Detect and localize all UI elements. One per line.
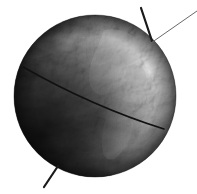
globe-diagram-svg bbox=[0, 0, 197, 194]
figure-canvas: Earth globe with rotation axis and equat… bbox=[0, 0, 197, 194]
